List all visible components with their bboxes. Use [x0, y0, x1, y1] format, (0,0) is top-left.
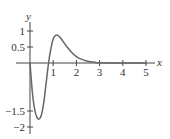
- x-tick-label: 4: [120, 66, 126, 78]
- y-tick-label: 1: [20, 25, 26, 37]
- chart: x y 12345 10.5−1.5−2: [0, 0, 170, 139]
- y-tick-label: −1.5: [5, 105, 25, 117]
- x-tick-label: 3: [97, 66, 103, 78]
- y-tick-label: −2: [13, 121, 25, 133]
- y-axis-label: y: [25, 10, 31, 22]
- x-tick-label: 2: [74, 66, 80, 78]
- y-ticks: 10.5−1.5−2: [5, 25, 33, 133]
- series-line: [30, 35, 146, 119]
- x-axis-label: x: [156, 56, 162, 68]
- y-tick-label: 0.5: [11, 41, 25, 53]
- x-tick-label: 1: [50, 66, 56, 78]
- x-tick-label: 5: [143, 66, 149, 78]
